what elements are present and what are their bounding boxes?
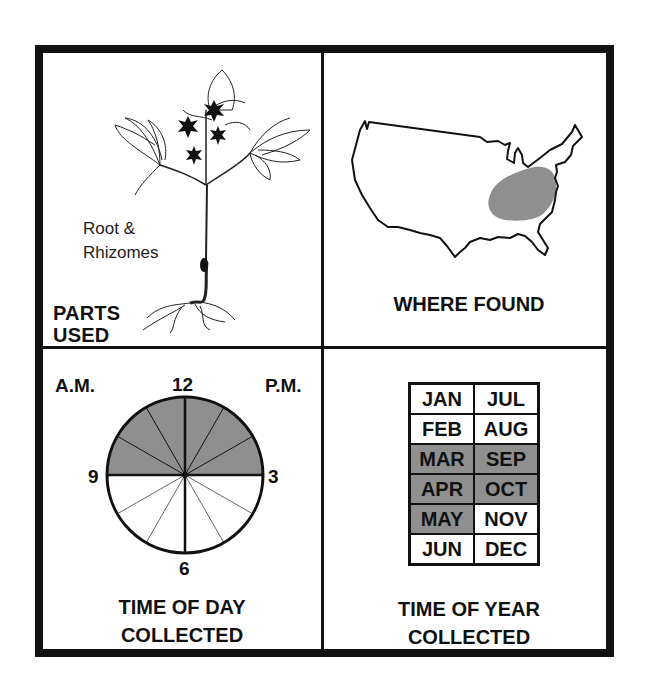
time-of-year-title: TIME OF YEAR COLLECTED (324, 595, 614, 651)
month-cell-nov: NOV (474, 504, 539, 534)
month-cell-sep: SEP (474, 444, 539, 474)
month-cell-jun: JUN (410, 534, 475, 565)
month-cell-mar: MAR (410, 444, 475, 474)
month-row: JUNDEC (410, 534, 539, 565)
time-of-day-title-line1: TIME OF DAY (43, 593, 321, 621)
month-row: MAYNOV (410, 504, 539, 534)
time-of-year-title-line2: COLLECTED (324, 623, 614, 651)
month-grid: JANJULFEBAUGMARSEPAPROCTMAYNOVJUNDEC (408, 382, 540, 566)
month-cell-oct: OCT (474, 474, 539, 504)
month-cell-jul: JUL (474, 384, 539, 415)
month-row: APROCT (410, 474, 539, 504)
month-row: MARSEP (410, 444, 539, 474)
time-of-day-title-line2: COLLECTED (43, 621, 321, 649)
month-cell-feb: FEB (410, 414, 475, 444)
month-row: FEBAUG (410, 414, 539, 444)
month-cell-apr: APR (410, 474, 475, 504)
month-cell-jan: JAN (410, 384, 475, 415)
time-of-day-title: TIME OF DAY COLLECTED (43, 593, 321, 649)
month-row: JANJUL (410, 384, 539, 415)
month-cell-may: MAY (410, 504, 475, 534)
month-cell-aug: AUG (474, 414, 539, 444)
month-cell-dec: DEC (474, 534, 539, 565)
time-of-year-title-line1: TIME OF YEAR (324, 595, 614, 623)
